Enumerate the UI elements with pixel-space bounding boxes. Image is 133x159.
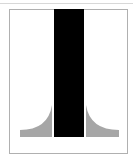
black-vertical-bar — [54, 9, 84, 137]
figure-canvas — [0, 0, 133, 159]
